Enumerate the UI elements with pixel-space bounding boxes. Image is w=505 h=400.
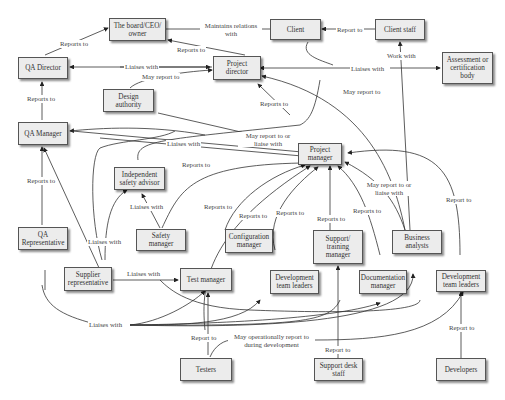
edge-label: May report to [141,73,180,81]
node-safety-manager[interactable]: Safety manager [136,229,186,251]
edge-label: Report to [336,26,364,34]
edge-label: Reports to [352,207,382,215]
edge-label: Liaises with [350,65,385,73]
edge-label: Reports to [203,203,233,211]
edge-label: Liaises with [129,203,164,211]
edge-label: Reports to [275,209,305,217]
edge-label: Reports to [238,212,268,220]
edge-label: Work with [386,52,417,60]
edge-label: May report to [342,88,381,96]
node-design-authority[interactable]: Design authority [103,89,154,112]
node-project-director[interactable]: Project director [213,56,261,80]
edge-label: Liaises with [126,270,161,278]
edge-label: Reports to [26,95,56,103]
node-test-manager[interactable]: Test manager [180,268,232,291]
edge-label: Liaises with [88,321,123,329]
node-safety-advisor[interactable]: Independent safety advisor [114,167,165,190]
edge-label: Maintains relations with [200,22,262,37]
node-developers[interactable]: Developers [436,358,486,381]
edge-label: Report to [190,334,218,342]
node-client[interactable]: Client [270,19,321,40]
org-diagram: The board/CEO/ owner Client Client staff… [0,0,505,400]
edge-label: Liaises with [124,63,159,71]
node-testers[interactable]: Testers [180,358,232,381]
node-qa-representative[interactable]: QA Representative [18,227,68,250]
node-documentation-manager[interactable]: Documentation manager [359,270,407,294]
node-supplier-representative[interactable]: Supplier representative [64,267,112,291]
node-assessment-body[interactable]: Assessment or certification body [442,52,493,84]
edge-label: May report to or liaise with [238,132,298,147]
node-business-analysts[interactable]: Business analysts [392,230,442,254]
node-project-manager[interactable]: Project manager [298,143,342,165]
edge-label: Report to [324,346,352,354]
edge-label: Reports to [316,215,346,223]
node-board[interactable]: The board/CEO/ owner [109,18,166,41]
node-dev-team-leaders-1[interactable]: Development team leaders [270,270,319,294]
node-dev-team-leaders-2[interactable]: Development team leaders [436,270,486,292]
edge-label: Liaises with [166,140,201,148]
edge-label: Reports to [59,40,89,48]
edge-label: Reports to [181,161,211,169]
edge-label: May report to or liaise with [363,181,415,196]
node-support-manager[interactable]: Support/ training manager [313,230,363,264]
edge-label: Report to [448,324,476,332]
edge-label: Reports to [259,100,289,108]
node-qa-director[interactable]: QA Director [18,57,68,79]
edge-label: Report to [445,196,473,204]
node-client-staff[interactable]: Client staff [375,19,425,40]
edge-label: May operationally report to during devel… [228,333,315,348]
node-support-desk[interactable]: Support desk staff [314,358,363,381]
edge-label: Liaises with [87,238,122,246]
edge-label: Reports to [176,46,206,54]
edge-label: Reports to [26,177,56,185]
node-config-manager[interactable]: Configuration manager [225,229,273,253]
node-qa-manager[interactable]: QA Manager [18,122,68,145]
